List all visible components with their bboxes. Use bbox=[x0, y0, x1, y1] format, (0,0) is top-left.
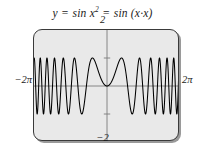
plot-frame bbox=[33, 29, 179, 141]
y-max-label: 2 bbox=[0, 14, 205, 25]
x-min-label: −2π bbox=[1, 74, 32, 85]
y-min-label: −2 bbox=[0, 132, 205, 143]
plot-area bbox=[33, 29, 179, 141]
x-max-label: 2π bbox=[182, 74, 193, 85]
plot-canvas bbox=[34, 30, 179, 141]
title-exponent: 2 bbox=[95, 5, 99, 14]
figure-sin-x-squared: y = sin x2 = sin (x·x) 2 −2 −2π 2π bbox=[0, 0, 205, 153]
